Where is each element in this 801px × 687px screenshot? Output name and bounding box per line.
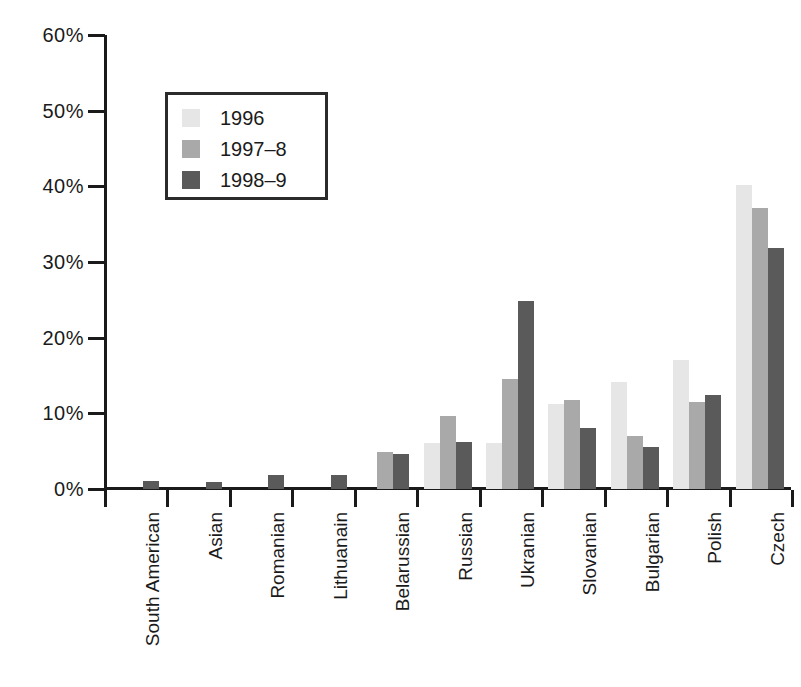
bar <box>643 447 659 489</box>
bar-group <box>611 35 659 489</box>
legend-label: 1996 <box>220 108 265 128</box>
bar-group <box>361 35 409 489</box>
y-axis-tick-label: 0% <box>2 479 84 499</box>
y-axis-tick-label: 30% <box>2 252 84 272</box>
x-axis-tick-mark <box>729 490 732 507</box>
x-axis-category-label: Romanian <box>268 512 287 599</box>
y-axis-tick-labels: 0%10%20%30%40%50%60% <box>0 0 84 687</box>
bar <box>424 443 440 489</box>
x-axis-tick-mark <box>291 490 294 507</box>
light-gray-swatch-icon <box>182 109 200 127</box>
y-axis-tick-mark <box>88 412 105 415</box>
y-axis-tick-label: 20% <box>2 328 84 348</box>
legend-label: 1998–9 <box>220 170 287 190</box>
bar <box>768 248 784 489</box>
bar <box>548 404 564 489</box>
y-axis-tick-label: 40% <box>2 176 84 196</box>
bar-group <box>736 35 784 489</box>
x-axis-category-label: Slovanian <box>580 512 599 595</box>
bar <box>143 481 159 489</box>
x-axis-tick-mark <box>479 490 482 507</box>
bar <box>502 379 518 489</box>
x-axis-tick-mark <box>104 490 107 507</box>
x-axis-category-label: Asian <box>206 512 225 560</box>
bar <box>456 442 472 489</box>
bar-group <box>111 35 159 489</box>
y-axis-tick-mark <box>88 34 105 37</box>
y-axis-tick-mark <box>88 488 105 491</box>
bar-group <box>486 35 534 489</box>
bar-chart: 0%10%20%30%40%50%60% South AmericanAsian… <box>0 0 801 687</box>
dark-gray-swatch-icon <box>182 171 200 189</box>
bar <box>518 301 534 489</box>
bar <box>580 428 596 489</box>
bar <box>752 208 768 489</box>
bar <box>393 454 409 489</box>
bar-group <box>673 35 721 489</box>
legend-item-1997-8: 1997–8 <box>182 136 287 162</box>
x-axis-category-label: South American <box>143 512 162 646</box>
x-axis-category-label: Ukranian <box>518 512 537 588</box>
bar <box>206 482 222 489</box>
bar <box>673 360 689 489</box>
bar <box>486 443 502 489</box>
bar <box>705 395 721 489</box>
bar <box>377 452 393 489</box>
x-axis-tick-mark <box>354 490 357 507</box>
x-axis-tick-mark <box>229 490 232 507</box>
x-axis-category-label: Belarussian <box>393 512 412 611</box>
bar <box>268 475 284 489</box>
legend-item-1996: 1996 <box>182 105 265 131</box>
bar <box>611 382 627 489</box>
x-axis-tick-mark <box>416 490 419 507</box>
bar <box>440 416 456 489</box>
y-axis-tick-mark <box>88 110 105 113</box>
x-axis-tick-mark <box>166 490 169 507</box>
x-axis-tick-mark <box>604 490 607 507</box>
bar <box>331 475 347 489</box>
bar <box>736 185 752 489</box>
bar-group <box>548 35 596 489</box>
x-axis-category-label: Lithuanain <box>331 512 350 600</box>
bar <box>689 402 705 489</box>
x-axis-category-label: Bulgarian <box>643 512 662 592</box>
y-axis-tick-mark <box>88 185 105 188</box>
bar <box>564 400 580 489</box>
bar-group <box>424 35 472 489</box>
x-axis-category-label: Polish <box>705 512 724 564</box>
x-axis-tick-mark <box>541 490 544 507</box>
legend-item-1998-9: 1998–9 <box>182 167 287 193</box>
y-axis-tick-label: 10% <box>2 403 84 423</box>
y-axis-tick-mark <box>88 337 105 340</box>
x-axis-tick-mark <box>791 490 794 507</box>
y-axis-tick-label: 50% <box>2 101 84 121</box>
legend: 1996 1997–8 1998–9 <box>165 92 328 200</box>
x-axis-category-label: Russian <box>456 512 475 581</box>
medium-gray-swatch-icon <box>182 140 200 158</box>
y-axis-tick-mark <box>88 261 105 264</box>
bar <box>627 436 643 489</box>
legend-label: 1997–8 <box>220 139 287 159</box>
x-axis-tick-mark <box>666 490 669 507</box>
y-axis-tick-label: 60% <box>2 25 84 45</box>
x-axis-category-label: Czech <box>768 512 787 566</box>
